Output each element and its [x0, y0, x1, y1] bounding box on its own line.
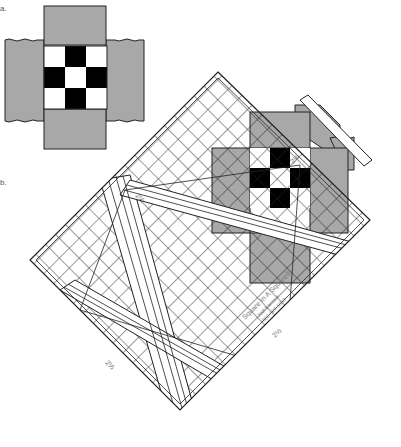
corner-mark-bottom-right: 2½: [271, 327, 283, 339]
square-in-a-square-ruler: [0, 0, 401, 447]
ruler-diagram: Square In A Square® Jodi Barrows 888-624…: [0, 0, 401, 447]
corner-mark-bottom-left: 2½: [104, 359, 116, 371]
